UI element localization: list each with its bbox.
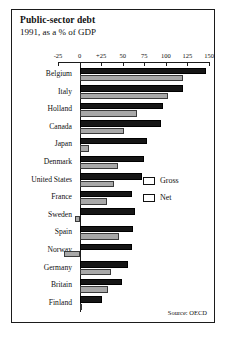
- bar-row: Denmark: [12, 154, 216, 172]
- bar-gross: [80, 279, 122, 285]
- bar-net: [80, 110, 138, 116]
- x-tick-label: 100: [161, 52, 171, 59]
- bar-net: [80, 304, 83, 310]
- source-note: Source: OECD: [168, 309, 207, 316]
- chart-card: Public-sector debt 1991, as a % of GDP -…: [11, 9, 215, 323]
- category-label: Canada: [49, 122, 76, 131]
- category-label: Spain: [55, 227, 76, 236]
- bar-net: [80, 198, 108, 204]
- category-label: Holland: [48, 104, 76, 113]
- bar-gross: [80, 208, 135, 214]
- category-label: France: [51, 192, 76, 201]
- bar-row: Holland: [12, 101, 216, 119]
- chart-subtitle: 1991, as a % of GDP: [20, 27, 170, 38]
- x-tick-label: 75: [141, 52, 148, 59]
- category-label: Sweden: [48, 210, 76, 219]
- bar-row: Spain: [12, 224, 216, 242]
- x-tick-label: -25: [54, 52, 63, 59]
- page-title: Public-sector debt: [20, 15, 170, 26]
- x-tick-label: 125: [183, 52, 193, 59]
- bar-net: [80, 181, 115, 187]
- bar-row: Italy: [12, 84, 216, 102]
- bar-gross: [80, 138, 147, 144]
- bar-row: Belgium: [12, 66, 216, 84]
- bar-net: [80, 128, 125, 134]
- category-label: United States: [31, 175, 76, 184]
- category-label: Italy: [58, 87, 76, 96]
- bar-net: [80, 286, 108, 292]
- bar-row: Norway: [12, 242, 216, 260]
- bar-gross: [80, 261, 128, 267]
- category-label: Belgium: [46, 69, 76, 78]
- bar-net: [64, 251, 80, 257]
- bar-net: [80, 163, 119, 169]
- bar-net: [80, 93, 168, 99]
- x-tick-label: +25: [96, 52, 106, 59]
- bar-net: [80, 233, 120, 239]
- bar-gross: [80, 120, 161, 126]
- bar-net: [80, 269, 112, 275]
- x-axis-tick-labels: -250+255075100125150: [12, 52, 216, 62]
- x-axis-line: [58, 62, 209, 63]
- category-label: Britain: [51, 280, 76, 289]
- bar-gross: [80, 103, 164, 109]
- category-label: Finland: [49, 298, 76, 307]
- bar-net: [75, 216, 79, 222]
- x-tick-label: 150: [204, 52, 214, 59]
- legend-item-net: Net: [143, 191, 205, 204]
- category-label: Japan: [55, 139, 76, 148]
- bar-gross: [80, 173, 142, 179]
- bar-gross: [80, 296, 102, 302]
- x-tick-label: 0: [78, 52, 81, 59]
- bar-gross: [80, 226, 133, 232]
- legend-swatch-gross-icon: [143, 177, 155, 185]
- bar-net: [80, 75, 184, 81]
- bar-row: Canada: [12, 119, 216, 137]
- bar-row: Japan: [12, 136, 216, 154]
- category-label: Denmark: [44, 157, 76, 166]
- bar-row: Britain: [12, 277, 216, 295]
- bar-gross: [80, 85, 184, 91]
- title-block: Public-sector debt 1991, as a % of GDP: [20, 15, 170, 38]
- bar-row: Sweden: [12, 207, 216, 225]
- legend-label-net: Net: [160, 193, 172, 202]
- bar-row: Germany: [12, 260, 216, 278]
- bar-gross: [80, 156, 145, 162]
- chart-legend: Gross Net: [143, 174, 205, 208]
- bar-gross: [80, 244, 133, 250]
- bar-net: [80, 145, 89, 151]
- legend-swatch-net-icon: [143, 194, 155, 202]
- legend-item-gross: Gross: [143, 174, 205, 187]
- category-label: Germany: [44, 263, 76, 272]
- legend-label-gross: Gross: [160, 176, 179, 185]
- x-tick-label: 50: [119, 52, 126, 59]
- bar-gross: [80, 191, 133, 197]
- bar-gross: [80, 68, 206, 74]
- chart-plot-area: -250+255075100125150 BelgiumItalyHolland…: [12, 52, 216, 320]
